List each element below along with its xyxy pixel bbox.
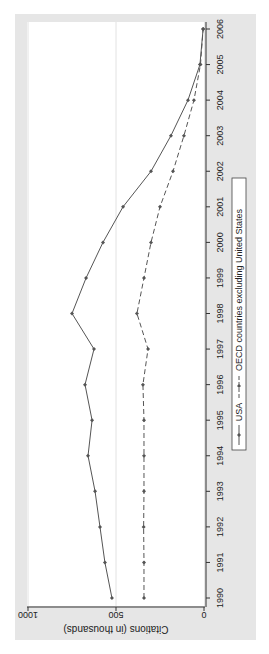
x-tick-label: 1998: [215, 303, 225, 323]
line-chart: 05001000 1990199119921993199419951996199…: [0, 0, 269, 654]
y-axis-title: Citations (in thousands): [63, 624, 168, 635]
y-tick-label: 0: [201, 610, 206, 620]
x-tick-label: 1999: [215, 268, 225, 288]
x-tick-label: 1997: [215, 339, 225, 359]
x-tick-label: 1994: [215, 446, 225, 466]
x-tick-label: 1992: [215, 517, 225, 537]
legend-label-oecd: OECD countries excluding United States: [234, 208, 244, 371]
x-tick-label: 2001: [215, 197, 225, 217]
x-tick-label: 1996: [215, 375, 225, 395]
y-tick-label: 500: [108, 610, 123, 620]
legend: USAOECD countries excluding United State…: [232, 178, 246, 450]
x-tick-label: 2002: [215, 161, 225, 181]
x-tick-label: 2003: [215, 126, 225, 146]
x-tick-label: 1990: [215, 588, 225, 608]
y-tick-label: 1000: [18, 610, 38, 620]
x-tick-label: 1995: [215, 410, 225, 430]
x-tick-label: 2006: [215, 19, 225, 39]
x-tick-label: 2000: [215, 232, 225, 252]
x-tick-label: 2005: [215, 55, 225, 75]
x-tick-label: 1993: [215, 481, 225, 501]
x-tick-label: 2004: [215, 90, 225, 110]
x-tick-label: 1991: [215, 552, 225, 572]
legend-label-usa: USA: [234, 403, 244, 422]
